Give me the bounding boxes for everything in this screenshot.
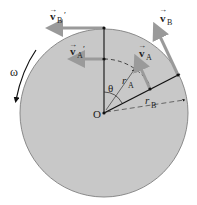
rotating-disk-diagram: → v B → v A → v B ′ → v A ′ ω θ O r A r … xyxy=(0,0,197,205)
label-theta: θ xyxy=(108,82,113,94)
label-origin: O xyxy=(93,108,101,120)
svg-text:v: v xyxy=(50,10,56,22)
point-A xyxy=(148,87,151,90)
svg-text:′: ′ xyxy=(83,44,85,54)
svg-text:v: v xyxy=(70,45,76,57)
svg-text:v: v xyxy=(160,12,166,24)
svg-text:A: A xyxy=(146,53,152,62)
svg-text:r: r xyxy=(145,94,150,106)
label-vB: → v B xyxy=(159,5,172,27)
svg-text:B: B xyxy=(167,18,172,27)
svg-text:v: v xyxy=(139,47,145,59)
svg-text:r: r xyxy=(122,74,127,86)
point-O xyxy=(102,111,105,114)
point-A-prime xyxy=(102,57,105,60)
svg-text:B: B xyxy=(57,16,62,25)
label-vB-prime: → v B ′ xyxy=(49,5,66,25)
point-B xyxy=(176,73,179,76)
label-omega: ω xyxy=(10,65,18,79)
svg-text:B: B xyxy=(151,101,156,110)
svg-text:A: A xyxy=(128,81,134,90)
svg-text:′: ′ xyxy=(64,10,66,20)
point-B-prime xyxy=(102,26,105,29)
